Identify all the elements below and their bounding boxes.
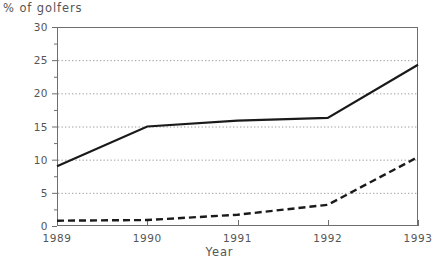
grid-lines	[58, 61, 417, 194]
x-tick-label: 1991	[223, 232, 252, 244]
data-series-group	[57, 65, 418, 221]
y-tick-label: 25	[0, 54, 48, 66]
x-axis-label: Year	[0, 245, 439, 256]
y-tick-label: 30	[0, 21, 48, 33]
x-tick-label: 1989	[42, 232, 71, 244]
x-tick-label: 1990	[133, 232, 162, 244]
y-tick-label: 0	[0, 220, 48, 232]
line-chart: % of golfers 051015202530 19891990199119…	[0, 0, 439, 256]
y-tick-label: 5	[0, 187, 48, 199]
y-tick-label: 15	[0, 121, 48, 133]
data-line-solid	[57, 65, 418, 166]
data-line-dashed	[57, 157, 418, 221]
chart-graphics	[0, 0, 439, 256]
x-tick-label: 1993	[403, 232, 432, 244]
y-axis-ticks	[52, 28, 57, 227]
x-axis-ticks	[58, 220, 419, 226]
y-tick-label: 10	[0, 154, 48, 166]
y-tick-label: 20	[0, 87, 48, 99]
x-tick-label: 1992	[313, 232, 342, 244]
